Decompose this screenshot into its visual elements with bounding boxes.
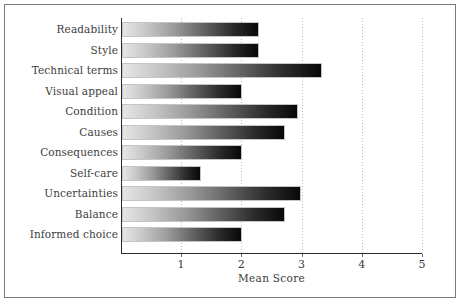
x-tick-label: 4 <box>350 258 374 271</box>
bar <box>122 166 201 181</box>
bar <box>122 145 242 160</box>
tick-mark-5 <box>422 254 423 257</box>
x-tick-label: 1 <box>169 258 193 271</box>
bar <box>122 227 242 242</box>
bar <box>122 22 259 37</box>
y-axis-category-labels: ReadabilityStyleTechnical termsVisual ap… <box>5 18 118 254</box>
bar <box>122 43 259 58</box>
category-label: Informed choice <box>6 228 118 240</box>
category-label: Balance <box>6 208 118 220</box>
gridline-5 <box>422 18 423 254</box>
bar <box>122 63 322 78</box>
x-axis-title: Mean Score <box>121 272 422 284</box>
bar <box>122 104 298 119</box>
category-label: Readability <box>6 23 118 35</box>
figure: 12345 ReadabilityStyleTechnical termsVis… <box>0 0 462 304</box>
category-label: Visual appeal <box>6 85 118 97</box>
x-tick-label: 3 <box>290 258 314 271</box>
bar <box>122 207 285 222</box>
category-label: Consequences <box>6 146 118 158</box>
tick-mark-4 <box>362 254 363 257</box>
category-label: Condition <box>6 105 118 117</box>
bar <box>122 125 285 140</box>
bar <box>122 186 301 201</box>
tick-mark-3 <box>302 254 303 257</box>
category-label: Causes <box>6 126 118 138</box>
tick-mark-2 <box>241 254 242 257</box>
category-label: Self-care <box>6 167 118 179</box>
tick-mark-1 <box>181 254 182 257</box>
x-tick-label: 2 <box>229 258 253 271</box>
bar <box>122 84 242 99</box>
category-label: Style <box>6 44 118 56</box>
x-tick-label: 5 <box>410 258 434 271</box>
category-label: Uncertainties <box>6 187 118 199</box>
bar-series <box>122 18 422 254</box>
category-label: Technical terms <box>6 64 118 76</box>
